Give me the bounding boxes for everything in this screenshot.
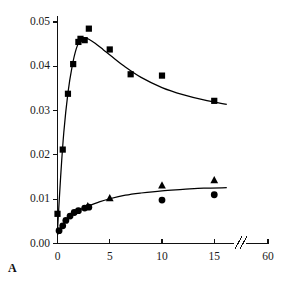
- axis-break-icon: [235, 237, 247, 249]
- marker-squares-8: [107, 46, 113, 52]
- y-tick-label-2: 0.02: [8, 149, 50, 161]
- x-tick-label-1: 5: [95, 251, 125, 263]
- fit-curve-squares: [58, 38, 227, 230]
- x-tick-label-0: 0: [43, 251, 73, 263]
- y-tick-label-1: 0.01: [8, 193, 50, 205]
- figure-panel-a: 0.000.010.020.030.040.0505101560 A: [0, 0, 291, 288]
- y-tick-label-4: 0.04: [8, 60, 50, 72]
- marker-circles-5: [75, 207, 82, 214]
- y-tick-label-5: 0.05: [8, 16, 50, 28]
- marker-squares-1: [60, 146, 66, 152]
- fit-curve-circles: [58, 188, 227, 235]
- marker-squares-9: [128, 71, 134, 77]
- fit-curves: [58, 38, 227, 235]
- panel-label: A: [8, 262, 17, 274]
- data-markers: [54, 26, 218, 235]
- marker-squares-0: [54, 211, 60, 217]
- x-tick-label-2: 10: [147, 251, 177, 263]
- y-tick-label-3: 0.03: [8, 105, 50, 117]
- marker-squares-3: [70, 61, 76, 67]
- marker-squares-11: [211, 98, 217, 104]
- marker-triangles-3: [210, 176, 218, 183]
- marker-squares-10: [159, 73, 165, 79]
- marker-squares-2: [65, 91, 71, 97]
- marker-squares-7: [86, 26, 92, 32]
- marker-squares-6: [82, 37, 88, 43]
- marker-triangles-2: [158, 181, 166, 188]
- x-tick-label-3: 15: [199, 251, 229, 263]
- y-tick-label-0: 0.00: [8, 238, 50, 250]
- axes: [53, 16, 269, 249]
- marker-circles-9: [211, 191, 218, 198]
- x-tick-label-4: 60: [253, 251, 283, 263]
- marker-circles-8: [159, 197, 166, 204]
